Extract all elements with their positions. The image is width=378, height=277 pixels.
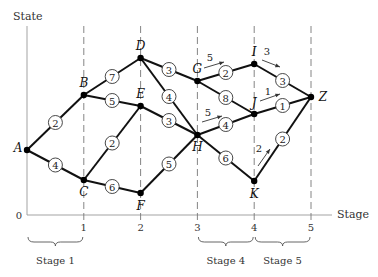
x-tick-label: 4: [251, 222, 257, 233]
node-dot: [251, 111, 257, 117]
arrow-head-icon: [275, 64, 280, 68]
edge-A-B: 2: [27, 95, 84, 150]
node-dot: [137, 55, 143, 61]
cost-value: 3: [264, 46, 270, 57]
edge-weight: 2: [223, 68, 229, 79]
arrow-head-icon: [266, 149, 270, 154]
node-label: B: [78, 76, 88, 90]
node-dot: [81, 92, 87, 98]
edge-weight: 2: [52, 118, 58, 129]
stage-label: Stage 4: [206, 255, 245, 266]
edge-B-E: 5: [84, 94, 141, 108]
edge-weight: 3: [166, 116, 172, 127]
axes: State Stage 0: [13, 10, 369, 221]
node-label: G: [193, 62, 203, 76]
cost-arrow-H: 5: [202, 107, 222, 122]
edge-weight: 2: [109, 138, 115, 149]
edge-H-K: 6: [197, 135, 254, 181]
x-tick-label: 2: [137, 222, 143, 233]
node-dot: [194, 132, 200, 138]
node-label: C: [79, 185, 88, 199]
node-dot: [81, 177, 87, 183]
edge-G-I: 2: [197, 64, 254, 81]
node-label: I: [251, 45, 257, 59]
edge-C-F: 6: [84, 180, 141, 194]
stage-brace: [255, 237, 310, 246]
stage-brace: [198, 237, 253, 246]
node-B: B: [78, 76, 88, 98]
node-dot: [24, 147, 30, 153]
node-K: K: [249, 178, 260, 201]
node-I: I: [251, 45, 258, 67]
cost-arrow-G: 5: [204, 52, 224, 68]
edge-weight: 5: [166, 159, 172, 170]
node-A: A: [13, 141, 31, 155]
x-tick-label: 5: [308, 222, 314, 233]
node-label: J: [249, 96, 258, 110]
stage-braces: Stage 1Stage 4Stage 5: [28, 237, 310, 266]
node-label: A: [13, 141, 23, 155]
cost-value: 5: [205, 107, 211, 118]
cost-arrow-J: 1: [260, 86, 280, 101]
x-tick-label: 1: [81, 222, 87, 233]
x-tick-label: 3: [194, 222, 200, 233]
edge-weight: 3: [166, 65, 172, 76]
node-label: F: [135, 199, 145, 213]
origin-label: 0: [16, 210, 22, 221]
node-label: K: [249, 187, 260, 201]
edge-weight: 4: [52, 160, 58, 171]
cost-value: 5: [207, 52, 213, 63]
node-dot: [137, 103, 143, 109]
edge-A-C: 4: [27, 150, 84, 180]
edge-weight: 6: [223, 153, 229, 164]
node-dot: [308, 94, 314, 100]
node-label: D: [135, 39, 146, 53]
edge-weight: 4: [223, 120, 229, 131]
edge-C-E: 2: [84, 106, 141, 180]
cost-value: 1: [265, 86, 271, 97]
node-dot: [194, 78, 200, 84]
x-tick-labels: 12345: [81, 222, 315, 233]
stage-brace: [28, 237, 83, 246]
node-dot: [251, 178, 257, 184]
arrow-head-icon: [275, 94, 280, 98]
edge-B-D: 7: [84, 58, 141, 95]
node-H: H: [191, 132, 203, 154]
cost-arrow-I: 3: [262, 46, 280, 67]
arrow-head-icon: [219, 61, 224, 65]
node-dot: [137, 190, 143, 196]
edge-I-Z: 3: [254, 64, 311, 97]
y-axis-label: State: [13, 10, 42, 23]
x-axis-label: Stage: [337, 208, 369, 221]
node-label: H: [191, 140, 203, 154]
edge-weight: 5: [109, 96, 115, 107]
stage-label: Stage 5: [263, 255, 302, 266]
edge-weight: 8: [223, 93, 229, 104]
edge-F-H: 5: [141, 135, 198, 193]
edge-J-Z: 1: [254, 97, 311, 114]
shortest-path-diagram: State Stage 0 12345 Stage 1Stage 4Stage …: [0, 0, 378, 277]
node-label: Z: [318, 90, 328, 104]
stage-guides: [84, 26, 311, 222]
edges: 24752634352846312: [27, 58, 311, 194]
cost-value: 2: [256, 143, 262, 154]
node-D: D: [135, 39, 146, 61]
node-J: J: [249, 96, 258, 117]
node-F: F: [135, 190, 145, 213]
edge-weight: 4: [166, 92, 172, 103]
node-label: E: [135, 87, 145, 101]
node-dot: [251, 61, 257, 67]
edge-E-H: 3: [141, 106, 198, 135]
edge-weight: 6: [109, 182, 115, 193]
edge-weight: 7: [109, 72, 115, 83]
edge-weight: 1: [279, 101, 285, 112]
stage-label: Stage 1: [36, 255, 75, 266]
edge-weight: 2: [279, 134, 285, 145]
edge-weight: 3: [279, 76, 285, 87]
